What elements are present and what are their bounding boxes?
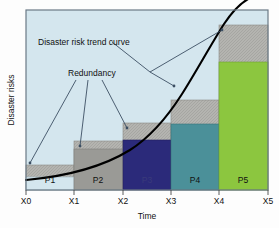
disaster-risk-chart-figure: P1 P2 P3 P4 P5 X0 X1 X2 X3 X4 X5 Disaste… (0, 0, 279, 228)
tick-label-x3: X3 (166, 196, 177, 206)
bar-label-p4: P4 (190, 175, 201, 185)
annotation-redundancy: Redundancy (68, 68, 116, 78)
tick-label-x0: X0 (21, 196, 32, 206)
bar-p5 (219, 62, 268, 190)
tick-label-x5: X5 (263, 196, 274, 206)
y-axis-title: Disaster risks (6, 74, 16, 125)
bar-label-p5: P5 (238, 175, 249, 185)
bar-label-p3: P3 (142, 175, 153, 185)
leader-dot-3 (126, 127, 129, 130)
leader-dot-1 (29, 162, 32, 165)
tick-label-x1: X1 (69, 196, 80, 206)
x-axis-ticks (26, 190, 268, 195)
leader-dot-curve-1 (173, 85, 176, 88)
tick-label-x4: X4 (214, 196, 225, 206)
bar-label-p2: P2 (93, 175, 104, 185)
annotation-trend-curve: Disaster risk trend curve (38, 37, 130, 47)
x-axis-title: Time (138, 211, 157, 221)
chart-canvas: P1 P2 P3 P4 P5 X0 X1 X2 X3 X4 X5 Disaste… (0, 0, 279, 228)
leader-dot-2 (79, 145, 82, 148)
bar-label-p1: P1 (45, 175, 56, 185)
tick-label-x2: X2 (118, 196, 129, 206)
leader-dot-curve-2 (221, 29, 224, 32)
